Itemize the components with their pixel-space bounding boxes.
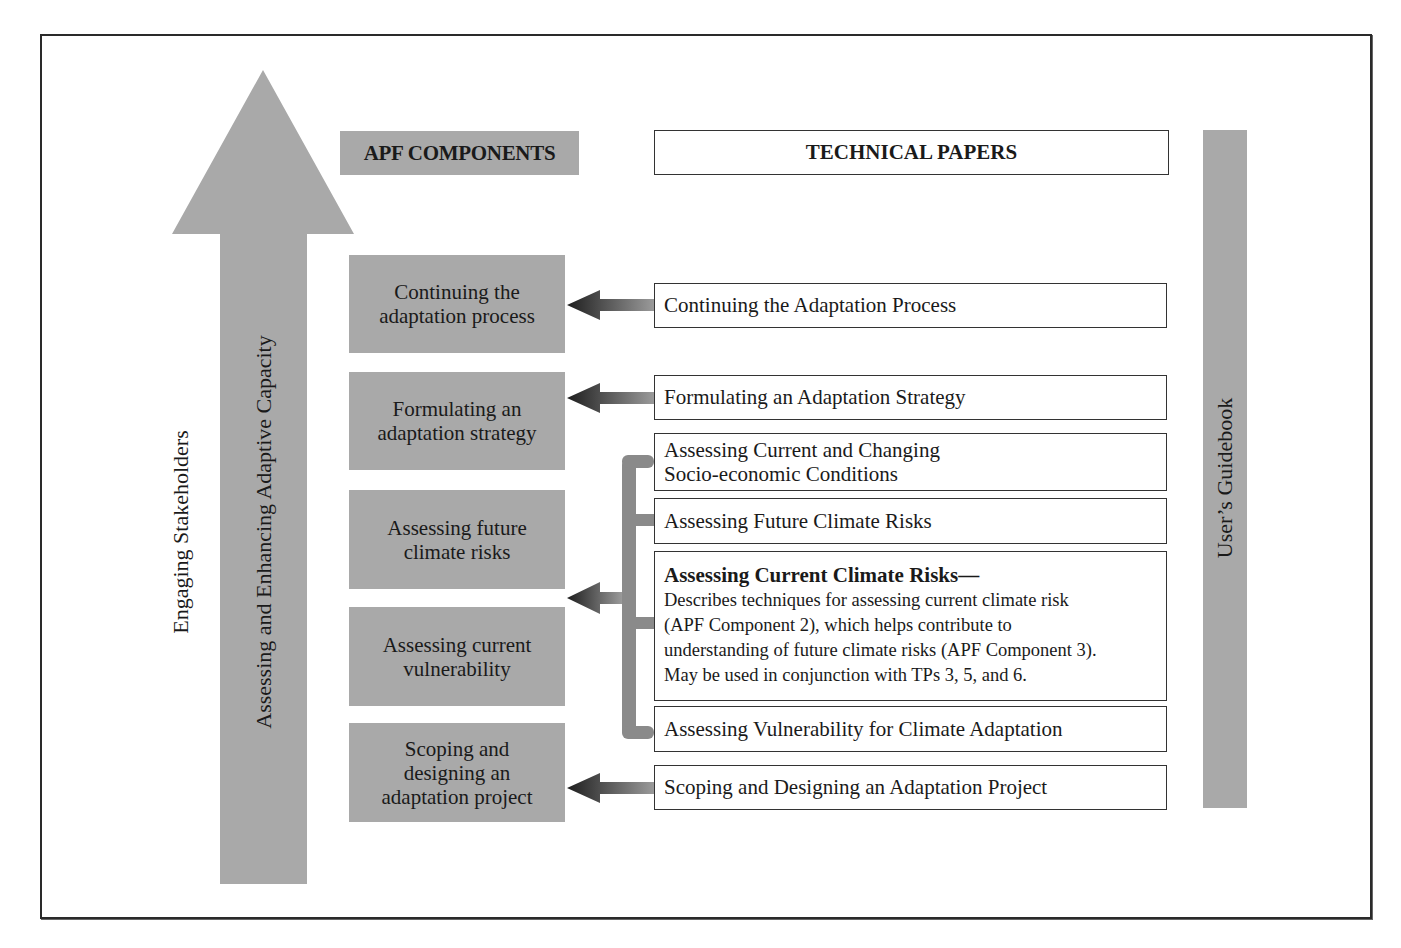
- component-current-vulnerability: Assessing currentvulnerability: [349, 607, 565, 706]
- paper-vulnerability: Assessing Vulnerability for Climate Adap…: [654, 706, 1167, 752]
- paper-future-risks: Assessing Future Climate Risks: [654, 498, 1167, 544]
- users-guidebook-label: User’s Guidebook: [1212, 398, 1238, 558]
- apf-components-header: APF COMPONENTS: [340, 131, 579, 175]
- users-guidebook-bar: User’s Guidebook: [1203, 130, 1247, 808]
- component-continuing: Continuing theadaptation process: [349, 255, 565, 353]
- component-scoping: Scoping anddesigning anadaptation projec…: [349, 723, 565, 822]
- paper-continuing: Continuing the Adaptation Process: [654, 283, 1167, 328]
- paper-socioeconomic: Assessing Current and ChangingSocio-econ…: [654, 433, 1167, 491]
- paper-formulating: Formulating an Adaptation Strategy: [654, 375, 1167, 420]
- paper-scoping: Scoping and Designing an Adaptation Proj…: [654, 765, 1167, 810]
- component-future-risks: Assessing futureclimate risks: [349, 490, 565, 589]
- technical-papers-header: TECHNICAL PAPERS: [654, 130, 1169, 175]
- adaptive-capacity-label: Assessing and Enhancing Adaptive Capacit…: [251, 335, 277, 728]
- component-formulating: Formulating anadaptation strategy: [349, 372, 565, 470]
- paper-current-climate-risks: Assessing Current Climate Risks— Describ…: [654, 551, 1167, 701]
- engaging-stakeholders-label: Engaging Stakeholders: [168, 430, 194, 633]
- paper-current-climate-risks-title: Assessing Current Climate Risks—: [664, 562, 1157, 588]
